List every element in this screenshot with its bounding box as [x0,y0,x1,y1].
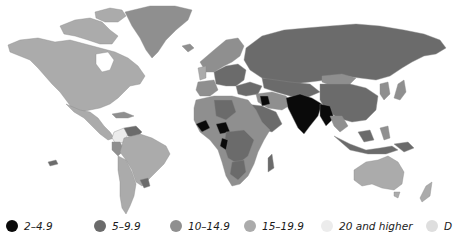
legend-label: 20 and higher [339,220,412,232]
legend-item-15-19.9: 15–19.9 [244,218,304,234]
legend-label: 15–19.9 [262,220,304,232]
legend-item-20-and-higher: 20 and higher [321,218,412,234]
legend-label: 10–14.9 [188,220,230,232]
legend-swatch-icon [244,220,256,232]
legend-item-5-9.9: 5–9.9 [94,218,141,234]
region-south-america [112,126,170,214]
world-map [0,0,453,216]
legend-item-no-data: D [426,218,452,234]
legend-swatch-icon [94,220,106,232]
legend-label: 2–4.9 [24,220,53,232]
legend-label: 5–9.9 [112,220,141,232]
legend-swatch-icon [321,220,333,232]
region-north-america [8,6,194,140]
region-russia-asia [244,24,446,154]
legend-item-2-4.9: 2–4.9 [6,218,53,234]
legend-swatch-icon [6,220,18,232]
legend-swatch-icon [170,220,182,232]
map-legend: 2–4.9 5–9.9 10–14.9 15–19.9 20 and highe… [0,218,453,234]
legend-swatch-icon [426,220,438,232]
legend-label: D [444,220,452,232]
legend-item-10-14.9: 10–14.9 [170,218,230,234]
